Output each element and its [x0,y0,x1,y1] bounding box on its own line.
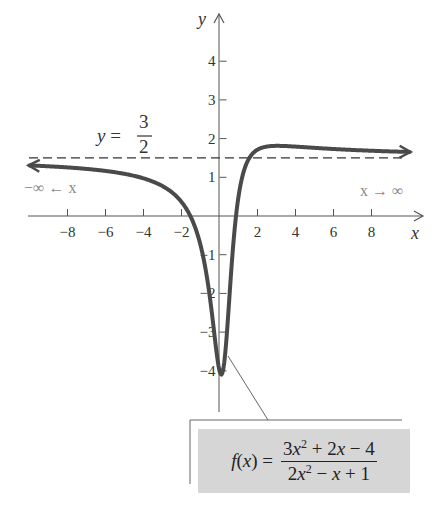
asymptote-label-lhs: y = [95,125,121,146]
y-axis-label: y [196,9,206,29]
right-limit-label: x → ∞ [360,182,403,199]
formula-numerator: 3x2 + 2x − 4 [281,438,377,462]
formula-fraction: 3x2 + 2x − 4 2x2 − x + 1 [281,438,377,485]
formula: f(x) = 3x2 + 2x − 4 2x2 − x + 1 [231,438,377,485]
x-tick-label: 8 [368,224,376,240]
x-tick-label: −2 [174,224,190,240]
x-tick-label: −4 [136,224,152,240]
leader-line [228,356,268,420]
y-tick-label: 3 [208,92,216,108]
y-tick-label: 1 [208,169,216,185]
x-tick-label: 4 [292,224,300,240]
asymptote-label-denominator: 2 [139,136,149,157]
formula-denominator: 2x2 − x + 1 [288,462,370,485]
x-tick-label: 2 [254,224,262,240]
x-axis-label: x [410,223,419,243]
y-tick-label: −4 [200,363,216,379]
formula-box: f(x) = 3x2 + 2x − 4 2x2 − x + 1 [198,429,410,493]
x-tick-label: −8 [60,224,76,240]
left-limit-label: −∞ ← x [24,179,76,196]
x-tick-label: 6 [330,224,338,240]
formula-lhs: f(x) = [231,450,273,472]
y-tick-label: 2 [208,131,216,147]
x-ticks: −8−6−4−22468 [60,209,376,240]
asymptote-label-numerator: 3 [139,111,149,132]
x-tick-label: −6 [98,224,114,240]
y-tick-label: 4 [208,53,216,69]
